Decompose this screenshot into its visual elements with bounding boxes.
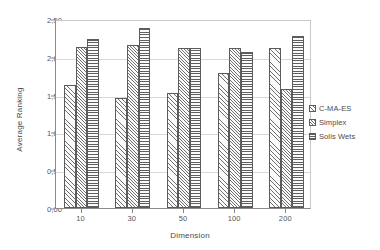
x-tick-label-10: 10 bbox=[61, 214, 101, 223]
legend-swatch-icon-simplex bbox=[309, 119, 316, 126]
legend-label-c-ma-es: C-MA-ES bbox=[319, 104, 351, 113]
bar-c-ma-es-dim-50 bbox=[167, 93, 179, 208]
bar-c-ma-es-dim-100 bbox=[218, 73, 230, 208]
legend-item-simplex[interactable]: Simplex bbox=[309, 118, 379, 127]
bar-solis-wets-dim-10 bbox=[87, 39, 99, 208]
x-tick-label-200: 200 bbox=[265, 214, 305, 223]
x-tick-mark-30 bbox=[132, 209, 133, 213]
bar-simplex-dim-10 bbox=[76, 47, 88, 208]
x-tick-label-100: 100 bbox=[214, 214, 254, 223]
bar-c-ma-es-dim-200 bbox=[269, 48, 281, 208]
x-tick-mark-200 bbox=[285, 209, 286, 213]
legend-item-solis-wets[interactable]: Solis Wets bbox=[309, 132, 379, 141]
legend-label-simplex: Simplex bbox=[319, 118, 346, 127]
bar-chart: Average Ranking 0,00 0,50 1,00 1,50 2,00… bbox=[0, 0, 380, 250]
legend-item-c-ma-es[interactable]: C-MA-ES bbox=[309, 104, 379, 113]
legend: C-MA-ES Simplex Solis Wets bbox=[309, 104, 379, 146]
legend-label-solis-wets: Solis Wets bbox=[319, 132, 355, 141]
y-axis-title: Average Ranking bbox=[15, 65, 24, 175]
x-tick-label-30: 30 bbox=[112, 214, 152, 223]
x-tick-mark-100 bbox=[234, 209, 235, 213]
bar-simplex-dim-200 bbox=[281, 89, 293, 208]
bar-simplex-dim-50 bbox=[178, 48, 190, 208]
bar-solis-wets-dim-50 bbox=[190, 48, 202, 208]
bar-solis-wets-dim-30 bbox=[139, 28, 151, 208]
x-axis-title: Dimension bbox=[0, 231, 380, 240]
legend-swatch-icon-solis-wets bbox=[309, 133, 316, 140]
legend-swatch-icon-c-ma-es bbox=[309, 105, 316, 112]
bar-solis-wets-dim-200 bbox=[292, 36, 304, 208]
bar-solis-wets-dim-100 bbox=[241, 52, 253, 208]
x-tick-mark-50 bbox=[183, 209, 184, 213]
bar-simplex-dim-30 bbox=[127, 45, 139, 208]
bar-simplex-dim-100 bbox=[229, 48, 241, 208]
plot-area bbox=[55, 20, 311, 209]
bar-c-ma-es-dim-10 bbox=[64, 85, 76, 208]
bar-c-ma-es-dim-30 bbox=[115, 98, 127, 208]
x-tick-mark-10 bbox=[81, 209, 82, 213]
x-tick-label-50: 50 bbox=[163, 214, 203, 223]
